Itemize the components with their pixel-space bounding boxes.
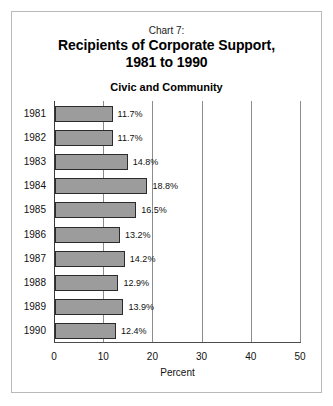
bar-value-label: 14.8% [133,156,159,168]
bar-value-label: 14.2% [130,253,156,265]
y-tick-label: 1981 [24,107,46,121]
y-tick-label: 1986 [24,228,46,242]
y-tick-label: 1983 [24,155,46,169]
bar [55,275,118,291]
plot-area: 198111.7%198211.7%198314.8%198418.8%1985… [54,101,302,342]
bar-value-label: 12.9% [123,277,149,289]
y-tick-label: 1987 [24,252,46,266]
y-tick-label: 1989 [24,300,46,314]
y-tick-label: 1990 [24,324,46,338]
chart-title-line1: Recipients of Corporate Support, [12,37,321,54]
bar-value-label: 13.2% [125,229,151,241]
bar [55,202,136,218]
x-tick-label: 30 [196,351,207,363]
chart-subtitle: Civic and Community [12,80,321,94]
x-tick-label: 50 [294,351,305,363]
bar-row: 198812.9% [54,275,302,291]
bar-value-label: 13.9% [128,301,154,313]
y-tick-label: 1985 [24,203,46,217]
chart-number: Chart 7: [12,24,321,37]
bar [55,154,128,170]
y-tick-label: 1988 [24,276,46,290]
bar-value-label: 12.4% [121,325,147,337]
bar [55,227,120,243]
x-tick-label: 40 [245,351,256,363]
bar-row: 198913.9% [54,299,302,315]
x-tick-label: 0 [51,351,57,363]
chart-figure: Chart 7: Recipients of Corporate Support… [11,11,322,393]
bar-value-label: 11.7% [118,108,143,120]
bar-row: 198211.7% [54,130,302,146]
bar [55,106,113,122]
bar-value-label: 18.8% [152,180,178,192]
bar-row: 198516.5% [54,202,302,218]
bar [55,178,147,194]
x-axis-label: Percent [54,367,301,379]
y-tick-label: 1982 [24,131,46,145]
chart-title-line2: 1981 to 1990 [12,54,321,71]
y-tick-label: 1984 [24,179,46,193]
bar-value-label: 11.7% [118,132,143,144]
x-tick-label: 10 [98,351,109,363]
bar-row: 199012.4% [54,323,302,339]
bar-row: 198714.2% [54,251,302,267]
bar [55,251,125,267]
bar [55,130,113,146]
bar-row: 198314.8% [54,154,302,170]
bar-value-label: 16.5% [141,204,167,216]
bar-row: 198111.7% [54,106,302,122]
chart-header: Chart 7: Recipients of Corporate Support… [12,24,321,94]
bar-row: 198613.2% [54,227,302,243]
x-axis-line [54,342,301,343]
x-tick-label: 20 [147,351,158,363]
bar [55,299,123,315]
bar-row: 198418.8% [54,178,302,194]
bar [55,323,116,339]
